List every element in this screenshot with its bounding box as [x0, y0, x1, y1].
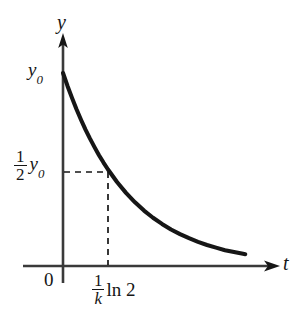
natural-log-term: ln 2 [107, 280, 136, 299]
y-axis-label: y [57, 12, 66, 32]
decay-curve [63, 73, 245, 254]
half-amplitude-label: 1 2 y0 [14, 148, 44, 184]
fraction-denominator: 2 [14, 165, 27, 183]
t-axis [23, 261, 280, 272]
half-life-label: 1 k ln 2 [92, 272, 136, 308]
half-amplitude-subscript: 0 [38, 166, 44, 181]
y-intercept-subscript: 0 [36, 72, 42, 87]
half-amplitude-base: y [30, 153, 38, 174]
fraction-denominator: k [92, 289, 104, 307]
fraction-numerator: 1 [92, 272, 105, 289]
one-half-fraction: 1 2 [14, 148, 27, 184]
exponential-decay-figure: y t y0 0 1 2 y0 1 k ln 2 [0, 0, 305, 323]
origin-label: 0 [44, 270, 54, 289]
one-over-k-fraction: 1 k [92, 272, 105, 308]
y-axis [58, 33, 68, 283]
half-amplitude-symbol: y0 [30, 154, 45, 178]
y-intercept-label: y0 [28, 60, 43, 84]
fraction-numerator: 1 [14, 148, 27, 165]
t-axis-label: t [283, 253, 289, 273]
